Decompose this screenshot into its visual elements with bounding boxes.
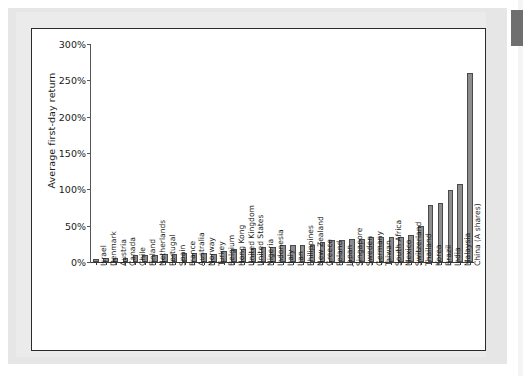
x-axis-category-label: Australia	[197, 232, 206, 266]
x-tick-mark	[273, 262, 274, 265]
x-tick-mark	[391, 262, 392, 265]
x-axis-category-label: New Zealand	[316, 216, 325, 266]
x-tick-mark	[185, 262, 186, 265]
x-tick-mark	[460, 262, 461, 265]
x-tick-mark	[381, 262, 382, 265]
x-tick-mark	[332, 262, 333, 265]
x-tick-mark	[411, 262, 412, 265]
chart-figure: Average first-day return 0%50%100%150%20…	[31, 28, 486, 351]
bar-column	[329, 29, 335, 262]
x-tick-mark	[441, 262, 442, 265]
plot-area: Average first-day return 0%50%100%150%20…	[32, 29, 487, 352]
x-tick-mark	[401, 262, 402, 265]
bar-column	[211, 29, 217, 262]
x-tick-mark	[283, 262, 284, 265]
x-axis-category-label: Hong Kong	[237, 225, 246, 266]
y-tick-mark	[87, 189, 91, 190]
scan-edge-block	[511, 10, 523, 46]
bar-column	[103, 29, 109, 262]
x-axis-category-label: Denmark	[109, 231, 118, 266]
bar-column	[172, 29, 178, 262]
x-tick-mark	[342, 262, 343, 265]
x-tick-mark	[165, 262, 166, 265]
bar-column	[221, 29, 227, 262]
x-tick-mark	[263, 262, 264, 265]
x-tick-mark	[450, 262, 451, 265]
y-tick-mark	[87, 117, 91, 118]
x-tick-mark	[224, 262, 225, 265]
x-tick-mark	[175, 262, 176, 265]
bar-column	[408, 29, 414, 262]
x-tick-mark	[293, 262, 294, 265]
scan-edge-strip	[518, 0, 523, 376]
bar-column	[133, 29, 139, 262]
x-tick-mark	[431, 262, 432, 265]
bar-column	[428, 29, 434, 262]
x-axis-category-label: Germany	[375, 231, 384, 266]
bar-column	[280, 29, 286, 262]
x-tick-mark	[125, 262, 126, 265]
bar-column	[379, 29, 385, 262]
x-axis-category-label: Singapore	[355, 228, 364, 266]
x-tick-mark	[135, 262, 136, 265]
y-tick-mark	[87, 262, 91, 263]
y-tick-label: 100%	[59, 184, 86, 195]
bar-column	[182, 29, 188, 262]
x-tick-mark	[470, 262, 471, 265]
y-tick-label-group: 0%50%100%150%200%250%300%	[44, 29, 86, 352]
x-axis-category-label: Philippines	[306, 225, 315, 266]
x-axis-category-label: United Kingdom	[247, 205, 256, 266]
bar-column	[339, 29, 345, 262]
y-tick-label: 0%	[71, 257, 86, 268]
y-tick-mark	[87, 44, 91, 45]
y-tick-label: 250%	[59, 75, 86, 86]
x-tick-mark	[194, 262, 195, 265]
x-tick-mark	[234, 262, 235, 265]
bar-column	[369, 29, 375, 262]
bar-column	[349, 29, 355, 262]
bar-column	[192, 29, 198, 262]
screenshot-page: Average first-day return 0%50%100%150%20…	[0, 0, 523, 376]
bar-column	[448, 29, 454, 262]
y-tick-mark	[87, 153, 91, 154]
bar-column	[300, 29, 306, 262]
x-tick-mark	[322, 262, 323, 265]
y-tick-label: 50%	[65, 220, 86, 231]
bar-column	[457, 29, 463, 262]
bar-column	[152, 29, 158, 262]
x-tick-mark	[372, 262, 373, 265]
y-tick-label: 300%	[59, 39, 86, 50]
x-tick-mark	[106, 262, 107, 265]
y-tick-mark	[87, 80, 91, 81]
y-tick-mark	[87, 226, 91, 227]
bar-column	[201, 29, 207, 262]
x-tick-mark	[362, 262, 363, 265]
x-axis-category-label: Switzerland	[414, 222, 423, 266]
x-tick-mark	[253, 262, 254, 265]
x-tick-mark	[244, 262, 245, 265]
bar-column	[467, 29, 473, 262]
x-axis-category-label: China (A shares)	[473, 203, 482, 266]
x-tick-mark	[155, 262, 156, 265]
x-tick-mark	[421, 262, 422, 265]
x-axis-category-label: Netherlands	[158, 220, 167, 266]
x-tick-mark	[214, 262, 215, 265]
bar-column	[123, 29, 129, 262]
x-tick-mark	[313, 262, 314, 265]
bar-column	[231, 29, 237, 262]
bar-column	[290, 29, 296, 262]
x-tick-mark	[96, 262, 97, 265]
x-tick-mark	[145, 262, 146, 265]
x-axis-category-label: United States	[256, 215, 265, 266]
bar-column	[438, 29, 444, 262]
x-tick-mark	[204, 262, 205, 265]
x-tick-mark	[303, 262, 304, 265]
bar-column	[142, 29, 148, 262]
x-tick-mark	[352, 262, 353, 265]
y-tick-label: 150%	[59, 148, 86, 159]
x-tick-mark	[116, 262, 117, 265]
bar-column	[93, 29, 99, 262]
y-tick-label: 200%	[59, 111, 86, 122]
bar-column	[270, 29, 276, 262]
bar-column	[113, 29, 119, 262]
